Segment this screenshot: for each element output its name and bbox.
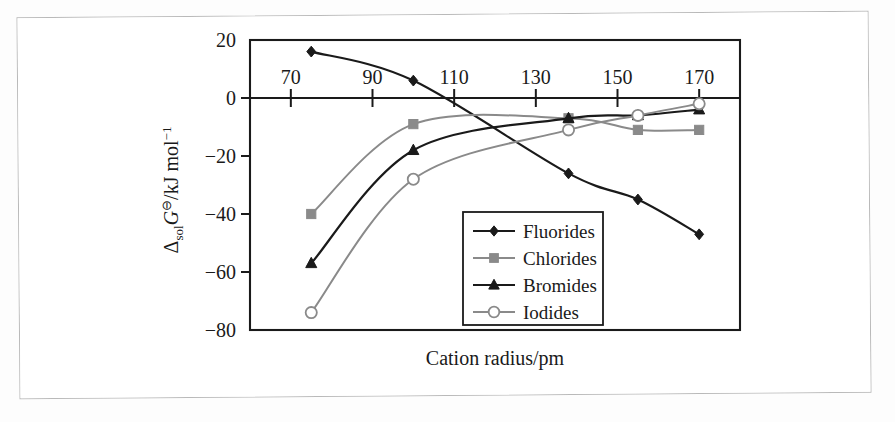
datapoint-iodides-155: [632, 110, 643, 121]
y-tick-label--60: −60: [205, 261, 236, 283]
legend-label-bromides: Bromides: [523, 275, 597, 296]
x-tick-label-150: 150: [603, 66, 633, 88]
x-axis-title: Cation radius/pm: [426, 347, 565, 370]
legend-marker-iodides: [489, 307, 500, 318]
datapoint-chlorides-155: [633, 125, 642, 134]
y-axis-ticks: [241, 98, 250, 272]
x-tick-label-170: 170: [684, 66, 714, 88]
datapoint-fluorides-75: [307, 46, 316, 57]
legend-marker-chlorides: [490, 254, 499, 263]
chart-legend: FluoridesChloridesBromidesIodides: [463, 212, 603, 325]
y-tick-label--80: −80: [205, 319, 236, 341]
y-tick-label--40: −40: [205, 203, 236, 225]
datapoint-fluorides-155: [633, 194, 642, 205]
y-axis-title: ΔsolG⊖/kJ mol−1: [159, 127, 186, 254]
datapoint-iodides-75: [306, 307, 317, 318]
y-tick-label-0: 0: [226, 87, 236, 109]
y-axis-tick-labels: 200−20−40−60−80: [205, 29, 236, 341]
datapoint-iodides-100: [408, 174, 419, 185]
solvation-gibbs-energy-chart: 7090110130150170 200−20−40−60−80 Fluorid…: [0, 0, 895, 422]
datapoint-fluorides-138: [564, 168, 573, 179]
svg-text:ΔsolG⊖/kJ mol−1: ΔsolG⊖/kJ mol−1: [159, 127, 186, 254]
datapoint-fluorides-170: [695, 229, 704, 240]
x-tick-label-70: 70: [281, 66, 301, 88]
datapoint-chlorides-100: [409, 120, 418, 129]
datapoint-iodides-170: [694, 98, 705, 109]
datapoint-fluorides-100: [409, 75, 418, 86]
x-tick-label-110: 110: [440, 66, 469, 88]
x-tick-label-90: 90: [363, 66, 383, 88]
x-axis-tick-labels: 7090110130150170: [281, 66, 714, 88]
datapoint-iodides-138: [563, 124, 574, 135]
datapoint-chlorides-170: [695, 125, 704, 134]
y-tick-label-20: 20: [216, 29, 236, 51]
legend-label-chlorides: Chlorides: [523, 248, 597, 269]
y-tick-label--20: −20: [205, 145, 236, 167]
figure-container: 7090110130150170 200−20−40−60−80 Fluorid…: [0, 0, 895, 422]
legend-label-fluorides: Fluorides: [523, 221, 595, 242]
x-tick-label-130: 130: [521, 66, 551, 88]
legend-label-iodides: Iodides: [523, 302, 579, 323]
datapoint-chlorides-75: [307, 209, 316, 218]
